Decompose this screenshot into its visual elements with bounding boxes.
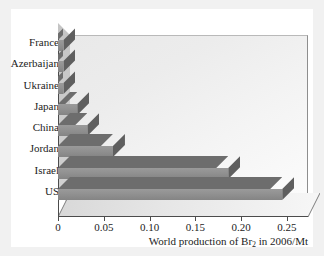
- bar-front-face: [58, 189, 282, 200]
- x-tick-label-2: 0.10: [140, 221, 159, 234]
- category-label-china: China: [33, 121, 59, 133]
- x-tick-label-5: 0.25: [277, 221, 296, 234]
- bar-front-face: [58, 146, 113, 157]
- bar-us: [58, 189, 282, 200]
- bar-azerbaijan: [58, 61, 63, 72]
- category-label-ukraine: Ukraine: [24, 79, 59, 91]
- x-tick-label-4: 0.20: [231, 221, 250, 234]
- bar-front-face: [58, 40, 63, 51]
- bar-top-face: [58, 156, 228, 168]
- category-label-azerbaijan: Azerbaijan: [11, 57, 59, 69]
- category-label-jordan: Jordan: [30, 142, 59, 154]
- category-label-us: US: [45, 185, 59, 197]
- x-tick-label-1: 0.05: [94, 221, 113, 234]
- category-label-france: France: [29, 36, 59, 48]
- bar-jordan: [58, 146, 113, 157]
- x-axis-title-before: World production of Br: [149, 235, 252, 247]
- bar-top-face: [58, 177, 282, 189]
- x-axis-title: World production of Br2 in 2006/Mt: [131, 235, 308, 251]
- bar-france: [58, 40, 63, 51]
- bar-front-face: [58, 61, 63, 72]
- category-label-japan: Japan: [34, 100, 59, 112]
- bar-front-face: [58, 83, 63, 94]
- figure-panel: FranceAzerbaijanUkraineJapanChinaJordanI…: [11, 9, 313, 247]
- bar-chart: FranceAzerbaijanUkraineJapanChinaJordanI…: [11, 9, 313, 247]
- x-axis-line: [58, 216, 308, 217]
- x-tick-label-3: 0.15: [186, 221, 205, 234]
- x-axis-title-after: in 2006/Mt: [256, 235, 308, 247]
- category-label-israel: Israel: [35, 164, 59, 176]
- bar-ukraine: [58, 83, 63, 94]
- x-tick-label-0: 0: [55, 221, 61, 234]
